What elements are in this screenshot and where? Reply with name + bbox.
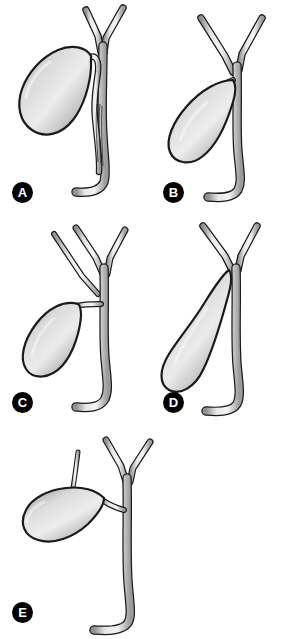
biliary-tree-e — [23, 440, 150, 630]
panel-label-a: A — [12, 182, 33, 203]
panel-b — [145, 0, 285, 212]
biliary-tree-d — [162, 226, 258, 411]
panel-label-c: C — [12, 392, 33, 413]
biliary-tree-b — [169, 18, 262, 197]
panel-e — [8, 424, 183, 639]
gallbladder — [23, 303, 81, 377]
panel-d — [145, 212, 285, 424]
panel-label-d: D — [163, 392, 184, 413]
biliary-variations-figure: A — [0, 0, 285, 639]
gallbladder-absent-cystic-duct — [162, 270, 232, 392]
gallbladder — [19, 47, 91, 135]
biliary-tree-a — [19, 8, 123, 192]
biliary-tree-c — [23, 228, 125, 407]
panel-a — [0, 0, 145, 212]
gallbladder — [169, 80, 236, 162]
panel-label-b: B — [163, 182, 184, 203]
gallbladder — [23, 487, 104, 541]
panel-label-e: E — [12, 602, 33, 623]
